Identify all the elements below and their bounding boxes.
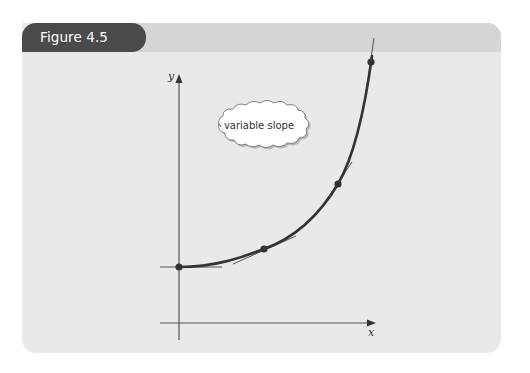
y-axis-label: y bbox=[167, 70, 175, 83]
callout-text: variable slope bbox=[224, 120, 294, 131]
tangent-point-3 bbox=[334, 180, 341, 187]
tangent-point-2 bbox=[260, 245, 267, 252]
x-axis-label: x bbox=[368, 326, 375, 339]
variable-slope-diagram: y x variable slope bbox=[0, 0, 530, 373]
variable-slope-callout: variable slope bbox=[218, 101, 310, 150]
tangent-point-4 bbox=[367, 58, 374, 65]
exponential-curve bbox=[179, 56, 372, 267]
tangent-point-1 bbox=[175, 263, 182, 270]
y-axis-arrow-icon bbox=[176, 74, 183, 83]
